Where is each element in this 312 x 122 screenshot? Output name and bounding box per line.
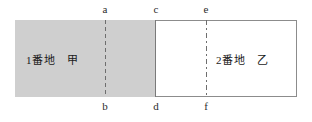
- parcel-label-lot-1: 1番地 甲: [26, 51, 78, 67]
- divider-line-ab: [105, 20, 106, 97]
- point-label-f: f: [199, 100, 213, 112]
- parcel-label-lot-2: 2番地 乙: [216, 51, 268, 67]
- point-label-d: d: [149, 100, 163, 112]
- point-label-a: a: [98, 3, 112, 15]
- point-label-b: b: [98, 100, 112, 112]
- point-label-c: c: [149, 3, 163, 15]
- land-parcel-diagram: 1番地 甲 2番地 乙 a c e b d f: [0, 0, 312, 122]
- divider-line-ef: [206, 20, 207, 97]
- point-label-e: e: [199, 3, 213, 15]
